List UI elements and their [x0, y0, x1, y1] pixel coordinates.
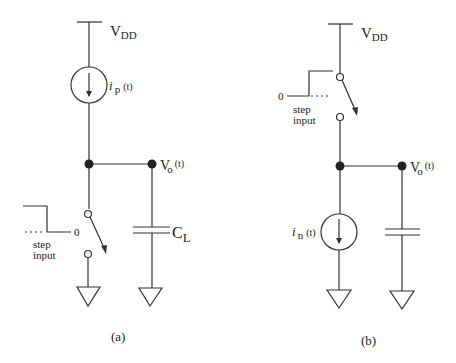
ground-icon — [327, 290, 351, 308]
current-source-p-label: ip(t) — [109, 78, 133, 95]
switch-a — [85, 211, 108, 288]
circuit-diagram: VDD ip(t) Vo(t) 0 step in — [0, 0, 456, 363]
node-dot — [336, 162, 345, 171]
current-source-n — [321, 214, 357, 250]
capacitor-label: CL — [172, 224, 191, 245]
output-node-dot — [398, 162, 407, 171]
ground-icon — [77, 287, 100, 306]
vdd-label: VDD — [361, 25, 388, 43]
current-source-n-label: in(t) — [292, 224, 316, 241]
ground-icon — [139, 288, 162, 306]
ground-icon — [390, 291, 414, 309]
capacitor — [385, 229, 420, 235]
step-input-label-2: input — [293, 114, 316, 126]
output-label: Vo(t) — [410, 160, 434, 177]
step-input-waveform-b — [287, 71, 333, 96]
output-label: Vo(t) — [160, 158, 184, 175]
current-source-p — [71, 67, 107, 103]
step-zero-label: 0 — [74, 226, 80, 238]
step-input-waveform-a — [23, 206, 71, 232]
panel-b: VDD 0 step input Vo(t) in(t) — [278, 24, 434, 348]
step-input-label-2: input — [33, 249, 56, 261]
caption-a: (a) — [111, 329, 125, 344]
step-zero-label: 0 — [278, 90, 284, 102]
caption-b: (b) — [361, 333, 376, 348]
panel-a: VDD ip(t) Vo(t) 0 step in — [23, 22, 191, 344]
node-dot — [85, 160, 94, 169]
switch-b — [337, 74, 359, 121]
capacitor-cl — [133, 227, 170, 233]
output-node-dot — [148, 160, 157, 169]
vdd-label: VDD — [110, 23, 137, 41]
